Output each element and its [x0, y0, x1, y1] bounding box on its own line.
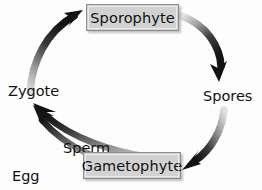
arrow-zygote-to-sporophyte: [30, 10, 83, 92]
node-label-zygote: Zygote: [8, 83, 59, 100]
arrow-sporophyte-to-spores: [182, 16, 227, 82]
life-cycle-diagram: Sporophyte Gametophyte Zygote Spores Spe…: [0, 0, 262, 190]
stage-label-gametophyte: Gametophyte: [82, 158, 182, 174]
stage-label-sporophyte: Sporophyte: [90, 10, 174, 26]
egg-cells-line-1: Egg: [12, 168, 45, 185]
arrow-spores-to-gametophyte: [182, 110, 224, 170]
stage-box-sporophyte[interactable]: Sporophyte: [86, 4, 179, 31]
connector-label-egg-cells: Egg cells: [12, 134, 45, 190]
node-label-spores: Spores: [203, 88, 252, 105]
stage-box-gametophyte[interactable]: Gametophyte: [83, 152, 181, 179]
